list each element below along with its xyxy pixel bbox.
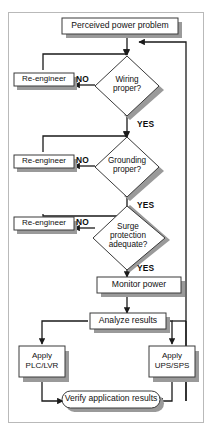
node-start-shape	[62, 18, 178, 34]
node-monitor-shape	[97, 277, 181, 293]
node-analyze-shape	[90, 313, 166, 329]
node-reeng3-shape	[14, 217, 74, 230]
node-verify-shape	[62, 391, 160, 408]
node-reeng2-shape	[14, 155, 74, 168]
flowchart-canvas	[0, 0, 216, 434]
figure-root: Perceived power problem Re-engineer Re-e…	[0, 0, 216, 434]
edge-analyze-to-plc	[42, 321, 88, 344]
node-reeng1-shape	[14, 73, 74, 86]
node-plc-shape	[19, 346, 65, 377]
node-decision-wiring-shape	[95, 56, 159, 116]
node-decision-grounding-shape	[95, 137, 159, 197]
node-ups-shape	[149, 346, 195, 377]
shape-group	[14, 18, 195, 408]
edge-reeng1-return	[43, 54, 126, 70]
